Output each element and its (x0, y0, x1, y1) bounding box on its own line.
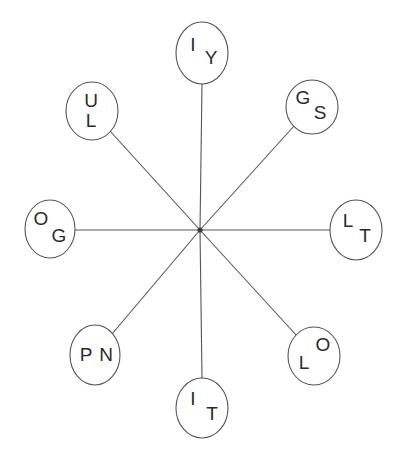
node-bottom-left[interactable]: PN (70, 325, 120, 385)
node-left[interactable]: OG (25, 200, 75, 258)
edge-top-right (200, 126, 294, 230)
node-top-right-letter-1: S (314, 102, 327, 123)
node-top-letter-1: Y (205, 47, 218, 68)
node-bottom[interactable]: IT (176, 378, 228, 438)
node-bottom-right-letter-1: L (299, 352, 310, 373)
node-bottom-left-letter-0: P (80, 344, 93, 365)
node-top-right-letter-0: G (296, 87, 311, 108)
node-top-left-letter-0: U (84, 90, 98, 111)
node-top[interactable]: IY (176, 22, 228, 84)
edge-bottom (200, 230, 202, 378)
node-left-letter-1: G (52, 225, 67, 246)
edge-top-left (110, 131, 200, 230)
center-hub (197, 227, 202, 232)
center-hub-dot (197, 227, 202, 232)
node-bottom-outline (176, 378, 228, 438)
node-left-letter-0: O (34, 208, 49, 229)
node-top-right[interactable]: GS (286, 80, 338, 134)
edge-top (200, 84, 202, 230)
radial-star-diagram: IYGSLTOLITPNOGUL (0, 0, 402, 450)
star-graph-canvas: IYGSLTOLITPNOGUL (0, 0, 402, 450)
node-right-letter-0: L (343, 210, 354, 231)
node-bottom-right-outline (288, 327, 340, 385)
edge-bottom-right (200, 230, 297, 336)
node-bottom-letter-0: I (190, 388, 195, 409)
node-right[interactable]: LT (330, 200, 382, 260)
node-bottom-right[interactable]: OL (288, 327, 340, 385)
node-bottom-right-letter-0: O (316, 334, 331, 355)
node-right-outline (330, 200, 382, 260)
node-right-letter-1: T (359, 225, 371, 246)
node-left-outline (25, 200, 75, 258)
node-top-right-outline (286, 80, 338, 134)
edge-bottom-left (112, 230, 200, 334)
node-top-outline (176, 22, 228, 84)
node-bottom-left-letter-1: N (99, 344, 113, 365)
node-bottom-letter-1: T (206, 403, 218, 424)
node-top-letter-0: I (190, 34, 195, 55)
node-top-left-letter-1: L (86, 110, 97, 131)
node-top-left[interactable]: UL (66, 82, 118, 140)
